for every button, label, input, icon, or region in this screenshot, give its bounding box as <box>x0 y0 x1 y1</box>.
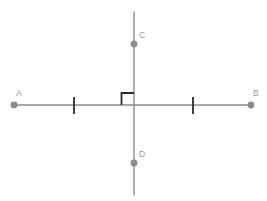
point-b-dot <box>248 102 255 109</box>
right-angle-marker <box>122 93 135 105</box>
point-d-dot <box>131 160 138 167</box>
point-b-label: B <box>253 88 259 98</box>
point-a-dot <box>11 102 18 109</box>
geometry-figure: A B C D <box>0 0 267 201</box>
point-d-label: D <box>139 149 145 159</box>
point-c-dot <box>131 41 138 48</box>
point-c-label: C <box>139 30 145 40</box>
point-a-label: A <box>16 88 22 98</box>
geometry-canvas: A B C D <box>0 0 267 201</box>
